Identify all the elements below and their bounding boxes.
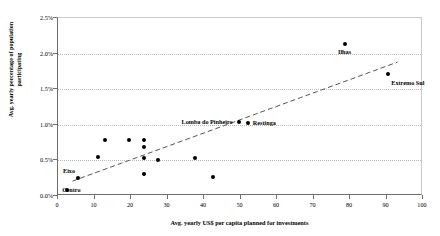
trendline [58, 18, 423, 196]
x-tick-mark [57, 195, 58, 199]
x-tick-label: 90 [371, 201, 401, 208]
x-tick-mark [130, 195, 131, 199]
x-tick-label: 40 [188, 201, 218, 208]
x-tick-mark [422, 195, 423, 199]
x-tick-mark [203, 195, 204, 199]
data-point [142, 138, 146, 142]
y-tick-label: 2.0% [23, 49, 53, 56]
y-tick-label: 1.0% [23, 120, 53, 127]
x-tick-mark [240, 195, 241, 199]
data-point [343, 42, 347, 46]
plot-area: CentroEixoLomba do PinheiroRestingaIlhas… [57, 17, 422, 195]
data-point [96, 155, 100, 159]
data-point-label: Extremo Sul [391, 79, 424, 86]
x-tick-label: 0 [42, 201, 72, 208]
x-tick-mark [313, 195, 314, 199]
data-point-label: Centro [62, 186, 80, 193]
x-tick-mark [94, 195, 95, 199]
data-point [142, 156, 146, 160]
y-tick-label: 1.5% [23, 85, 53, 92]
data-point-label: Ilhas [338, 48, 351, 55]
x-tick-label: 80 [334, 201, 364, 208]
data-point [142, 172, 146, 176]
x-tick-label: 70 [298, 201, 328, 208]
data-point [211, 175, 215, 179]
x-axis-tick-labels: 0102030405060708090100 [57, 201, 422, 213]
x-tick-label: 50 [225, 201, 255, 208]
x-axis-title: Avg. yearly US$ per capita planned for i… [57, 219, 422, 226]
x-tick-label: 30 [152, 201, 182, 208]
x-tick-mark [386, 195, 387, 199]
x-tick-label: 60 [261, 201, 291, 208]
y-tick-label: 0.0% [23, 192, 53, 199]
data-point [142, 145, 146, 149]
data-point-label: Restinga [253, 119, 276, 126]
x-tick-label: 100 [407, 201, 437, 208]
scatter-chart: Avg. yearly percentage of population par… [0, 0, 440, 236]
data-point [237, 120, 241, 124]
data-point-label: Lomba do Pinheiro [182, 118, 233, 125]
x-tick-mark [276, 195, 277, 199]
x-tick-mark [349, 195, 350, 199]
x-tick-mark [167, 195, 168, 199]
y-axis-tick-labels: 0.0%0.5%1.0%1.5%2.0%2.5% [19, 17, 53, 195]
x-tick-label: 10 [79, 201, 109, 208]
y-tick-label: 0.5% [23, 156, 53, 163]
data-point-label: Eixo [63, 167, 75, 174]
y-tick-label: 2.5% [23, 14, 53, 21]
x-tick-label: 20 [115, 201, 145, 208]
